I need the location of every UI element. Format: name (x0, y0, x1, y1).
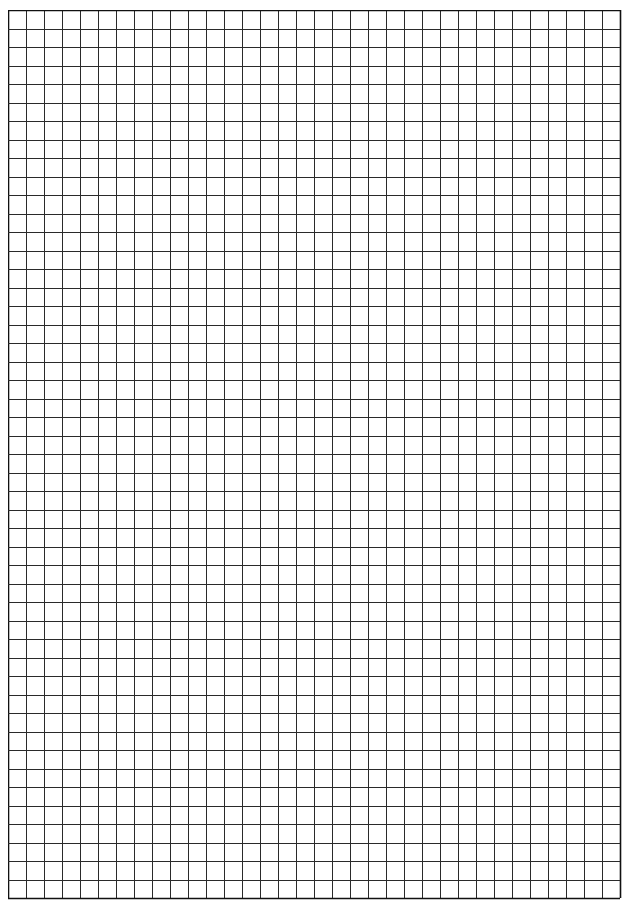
grid-lines (8, 10, 622, 900)
graph-paper-grid (8, 10, 622, 900)
